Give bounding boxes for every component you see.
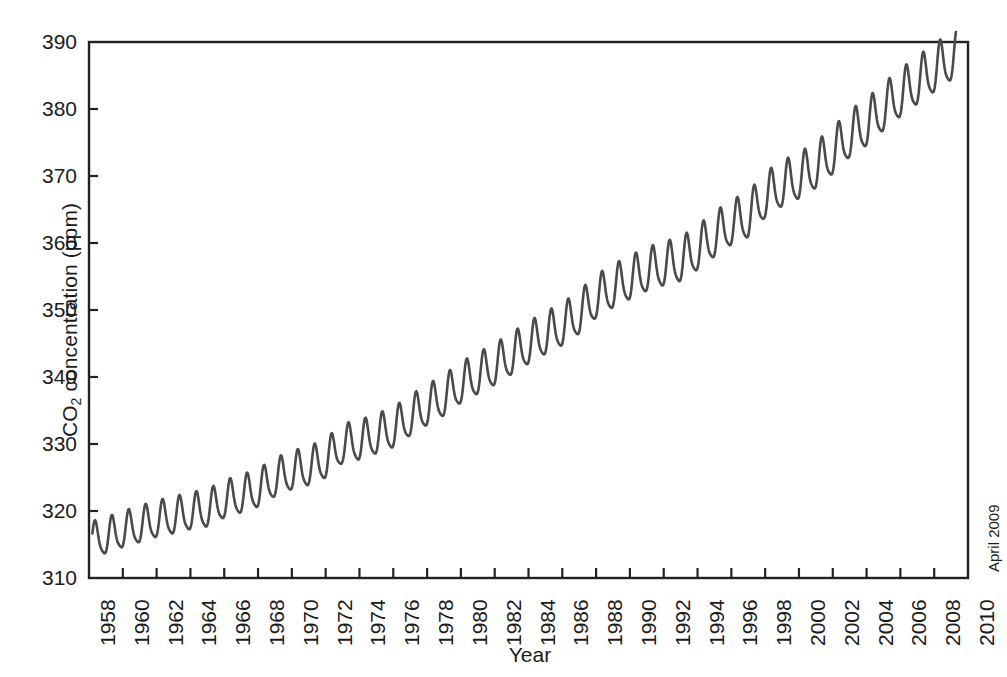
axis-frame [89, 42, 968, 578]
y-tick-label: 360 [3, 232, 77, 253]
y-tick-label: 340 [3, 366, 77, 387]
y-tick-label: 390 [3, 31, 77, 52]
x-tick-label: 1974 [367, 599, 388, 646]
x-tick-label: 1988 [604, 599, 625, 646]
x-tick-label: 1984 [537, 599, 558, 646]
x-tick-label: 1966 [232, 599, 253, 646]
annotation-april-2009: April 2009 [986, 504, 1001, 572]
y-tick-label: 370 [3, 165, 77, 186]
x-tick-label: 1996 [739, 599, 760, 646]
x-tick-label: 1990 [638, 599, 659, 646]
x-tick-label: 2002 [841, 599, 862, 646]
y-tick-label: 310 [3, 567, 77, 588]
x-tick-label: 1970 [300, 599, 321, 646]
y-tick-label: 380 [3, 98, 77, 119]
x-tick-label: 1994 [706, 599, 727, 646]
x-tick-label: 1992 [672, 599, 693, 646]
x-tick-label: 1982 [503, 599, 524, 646]
x-axis-title: Year [0, 643, 1007, 667]
x-tick-label: 1972 [334, 599, 355, 646]
x-tick-label: 2008 [942, 599, 963, 646]
x-tick-label: 1978 [435, 599, 456, 646]
tick-marks [89, 109, 934, 578]
x-tick-label: 1960 [131, 599, 152, 646]
y-tick-label: 350 [3, 299, 77, 320]
y-tick-label: 320 [3, 500, 77, 521]
x-tick-label: 1958 [97, 599, 118, 646]
y-tick-label: 330 [3, 433, 77, 454]
co2-data-line [92, 32, 956, 553]
x-tick-label: 1980 [469, 599, 490, 646]
x-tick-label: 1976 [401, 599, 422, 646]
x-tick-label: 2010 [976, 599, 997, 646]
x-tick-label: 1986 [570, 599, 591, 646]
x-tick-label: 2006 [908, 599, 929, 646]
x-tick-label: 1964 [198, 599, 219, 646]
x-tick-label: 2004 [875, 599, 896, 646]
x-tick-label: 1962 [165, 599, 186, 646]
x-tick-label: 1998 [773, 599, 794, 646]
x-tick-label: 2000 [807, 599, 828, 646]
y-axis-title-subscript: 2 [68, 398, 84, 406]
x-tick-label: 1968 [266, 599, 287, 646]
